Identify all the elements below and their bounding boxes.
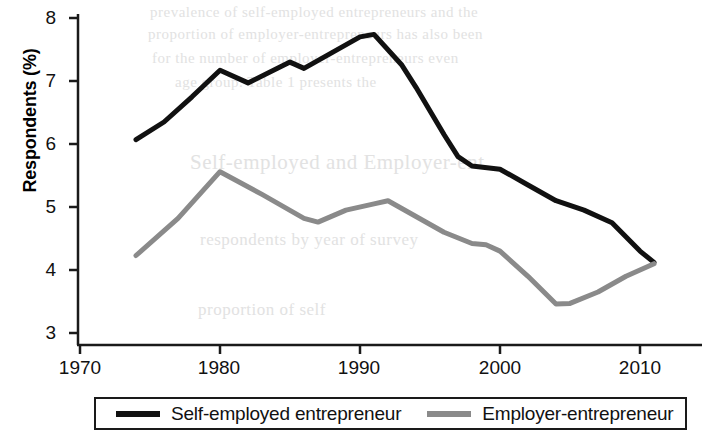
- series-line-1: [136, 34, 654, 262]
- legend-label-self-employed: Self-employed entrepreneur: [171, 403, 401, 425]
- chart-legend: Self-employed entrepreneur Employer-entr…: [94, 397, 687, 430]
- y-axis-ticks: [69, 18, 78, 333]
- legend-item-self-employed: Self-employed entrepreneur: [116, 403, 401, 425]
- axis-lines: [77, 14, 702, 345]
- x-axis-ticks: [80, 345, 640, 354]
- series-layer: [136, 34, 654, 304]
- legend-label-employer: Employer-entrepreneur: [482, 403, 673, 425]
- series-line-2: [136, 172, 654, 304]
- chart-figure: prevalence of self-employed entrepreneur…: [0, 0, 702, 431]
- legend-line-swatch-gray-icon: [427, 411, 471, 417]
- plot-area: [0, 0, 702, 431]
- legend-item-employer: Employer-entrepreneur: [427, 403, 673, 425]
- legend-line-swatch-black-icon: [116, 411, 160, 417]
